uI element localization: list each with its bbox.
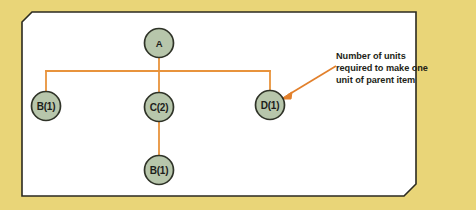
node-d[interactable]: D(1) xyxy=(256,91,285,120)
figure-root: A B(1) C(2) D(1) B(1) Number of units re… xyxy=(0,0,476,210)
annotation-line-2: required to make one xyxy=(336,63,428,73)
node-a[interactable]: A xyxy=(145,29,174,58)
node-b-bottom-label: B(1) xyxy=(150,165,169,176)
panel-frame xyxy=(22,12,416,196)
node-b-bottom[interactable]: B(1) xyxy=(145,156,174,185)
node-d-label: D(1) xyxy=(261,100,280,111)
node-a-label: A xyxy=(156,38,163,49)
node-b-left[interactable]: B(1) xyxy=(32,92,61,121)
bom-diagram: A B(1) C(2) D(1) B(1) Number of units re… xyxy=(0,0,476,210)
node-b-left-label: B(1) xyxy=(37,101,56,112)
annotation-line-3: unit of parent item xyxy=(336,75,415,85)
annotation-line-1: Number of units xyxy=(336,51,406,61)
node-c-label: C(2) xyxy=(150,102,169,113)
node-c[interactable]: C(2) xyxy=(145,93,174,122)
